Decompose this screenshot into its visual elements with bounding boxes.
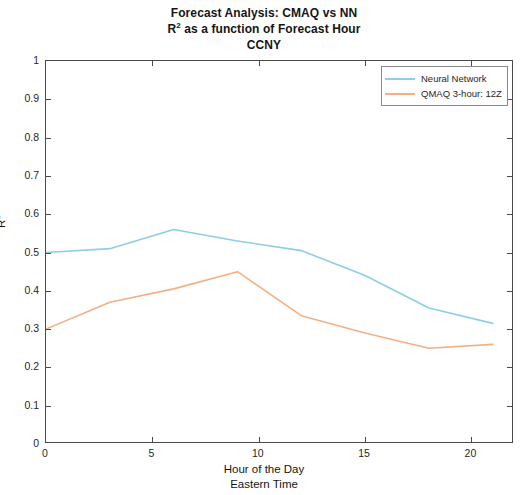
chart-title-r-symbol: R — [167, 22, 176, 36]
y-tick-mark-right — [507, 291, 512, 292]
y-tick-mark — [46, 99, 51, 100]
x-tick-mark — [471, 437, 472, 442]
legend-color-swatch — [385, 93, 415, 95]
y-tick-label: 0.7 — [3, 169, 39, 181]
chart-figure: Forecast Analysis: CMAQ vs NN R2 as a fu… — [0, 0, 528, 495]
y-tick-mark — [46, 291, 51, 292]
y-tick-mark-right — [507, 406, 512, 407]
y-tick-mark-right — [507, 367, 512, 368]
legend-item[interactable]: Neural Network — [385, 71, 503, 86]
x-tick-label: 15 — [344, 447, 384, 460]
legend-item-label: Neural Network — [421, 73, 486, 84]
y-tick-label: 0.8 — [3, 131, 39, 143]
x-tick-label: 10 — [238, 447, 278, 460]
series-line-1 — [46, 272, 493, 349]
chart-title-line-2-rest: as a function of Forecast Hour — [181, 22, 361, 36]
x-tick-mark — [259, 437, 260, 442]
y-tick-label: 0.4 — [3, 284, 39, 296]
y-tick-mark-right — [507, 214, 512, 215]
series-line-0 — [46, 230, 493, 324]
y-tick-label: 0.9 — [3, 92, 39, 104]
y-tick-mark — [46, 214, 51, 215]
x-axis-label-primary: Hour of the Day — [0, 462, 528, 477]
y-axis-label-exponent: 2 — [0, 215, 2, 219]
legend-item[interactable]: QMAQ 3-hour: 12Z — [385, 86, 503, 101]
y-tick-mark — [46, 406, 51, 407]
y-tick-label: 1 — [3, 54, 39, 66]
y-tick-mark — [46, 367, 51, 368]
y-tick-label: 0.2 — [3, 360, 39, 372]
x-tick-mark-top — [152, 61, 153, 66]
plot-area — [45, 60, 513, 443]
y-tick-mark-right — [507, 176, 512, 177]
x-tick-label: 0 — [25, 447, 65, 460]
y-tick-mark-right — [507, 138, 512, 139]
y-tick-label: 0.6 — [3, 207, 39, 219]
y-tick-mark — [46, 329, 51, 330]
chart-title-line-3: CCNY — [0, 37, 528, 53]
y-tick-label: 0.1 — [3, 399, 39, 411]
chart-title-line-1: Forecast Analysis: CMAQ vs NN — [0, 5, 528, 21]
x-tick-mark — [152, 437, 153, 442]
y-tick-label: 0.5 — [3, 246, 39, 258]
chart-title-line-2: R2 as a function of Forecast Hour — [0, 21, 528, 37]
x-axis-label: Hour of the Day Eastern Time — [0, 462, 528, 492]
y-axis-label-text: R — [0, 220, 7, 228]
y-tick-mark-right — [507, 253, 512, 254]
x-tick-label: 20 — [450, 447, 490, 460]
legend-item-label: QMAQ 3-hour: 12Z — [421, 88, 502, 99]
chart-title: Forecast Analysis: CMAQ vs NN R2 as a fu… — [0, 5, 528, 53]
x-tick-mark-top — [259, 61, 260, 66]
y-tick-mark-right — [507, 329, 512, 330]
x-tick-mark-top — [365, 61, 366, 66]
y-tick-mark — [46, 138, 51, 139]
legend-color-swatch — [385, 78, 415, 80]
x-tick-label: 5 — [131, 447, 171, 460]
x-axis-label-secondary: Eastern Time — [0, 477, 528, 492]
y-tick-mark — [46, 176, 51, 177]
y-tick-label: 0.3 — [3, 322, 39, 334]
chart-legend: Neural NetworkQMAQ 3-hour: 12Z — [381, 66, 508, 106]
x-tick-mark — [365, 437, 366, 442]
plot-lines — [46, 61, 514, 444]
y-tick-mark — [46, 253, 51, 254]
